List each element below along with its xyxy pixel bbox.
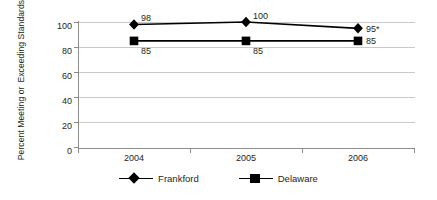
- legend-item-delaware[interactable]: Delaware: [239, 172, 318, 184]
- point-label-frankford-2004: 98: [141, 13, 151, 23]
- line-chart: Percent Meeting or Exceeding Standards 1…: [0, 0, 437, 200]
- diamond-marker-icon: [119, 172, 153, 184]
- square-marker-icon: [239, 172, 273, 184]
- point-label-delaware-2006: 85: [366, 36, 376, 46]
- point-label-delaware-2005: 85: [253, 46, 263, 56]
- point-label-frankford-2006: 95*: [366, 24, 380, 34]
- legend-item-frankford[interactable]: Frankford: [119, 172, 199, 184]
- marker-frankford-2006: [353, 23, 363, 33]
- marker-delaware-2004: [130, 37, 139, 46]
- legend-label-frankford: Frankford: [158, 173, 199, 184]
- marker-delaware-2006: [354, 37, 363, 46]
- point-label-frankford-2005: 100: [253, 11, 268, 21]
- marker-frankford-2005: [241, 17, 251, 27]
- legend-label-delaware: Delaware: [278, 173, 318, 184]
- point-label-delaware-2004: 85: [141, 46, 151, 56]
- marker-delaware-2005: [242, 37, 251, 46]
- marker-frankford-2004: [129, 19, 139, 29]
- chart-legend: Frankford Delaware: [0, 172, 437, 184]
